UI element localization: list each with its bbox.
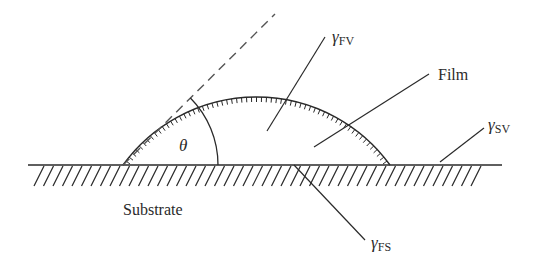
gamma-fv-subscript: FV [339,34,355,48]
film-hatch-tick [314,108,316,113]
film-hatch-tick [281,99,282,104]
substrate-hatch-stroke [386,166,396,186]
substrate-hatch-stroke [329,166,339,186]
substrate-hatch-stroke [376,166,386,186]
film-hatch-tick [222,101,223,106]
substrate-hatch-stroke [272,166,282,186]
substrate-hatch-stroke [424,166,434,186]
film-hatch-tick [175,119,177,123]
substrate-hatch-stroke [471,166,481,186]
substrate-hatch-stroke [82,166,92,186]
gamma-fs-subscript: FS [378,240,391,254]
film-hatch-tick [300,103,301,108]
substrate-hatch-stroke [224,166,234,186]
substrate-label: Substrate [123,201,183,218]
substrate-hatch-stroke [129,166,139,186]
substrate-hatch-stroke [120,166,130,186]
gamma-fv-label: γFV [332,27,354,48]
film-hatch-tick [212,103,213,108]
substrate-hatch-stroke [177,166,187,186]
film-hatch-tick [360,136,363,140]
contact-angle-arc [190,98,218,165]
film-hatch-tick [193,110,195,115]
substrate-hatch-stroke [253,166,263,186]
gamma-sv-subscript: SV [495,122,511,136]
film-hatch-tick [370,146,374,150]
substrate-hatch-stroke [433,166,443,186]
gamma-fv-leader [267,37,325,131]
film-hatch-tick [179,116,181,120]
film-hatch-tick [331,116,333,120]
film-hatch-tick [237,98,238,103]
substrate-hatch-stroke [63,166,73,186]
film-hatch-tick [309,106,311,111]
substrate-hatch-stroke [44,166,54,186]
substrate-hatch-stroke [158,166,168,186]
film-hatch-tick [295,102,296,107]
substrate-hatch-stroke [91,166,101,186]
film-hatch-tick [290,101,291,106]
substrate-hatch-stroke [319,166,329,186]
film-label: Film [438,66,469,83]
film-hatch-tick [207,105,209,110]
film-hatch-tick [336,119,338,123]
film-leader [314,74,429,147]
film-hatch-tick [327,114,329,119]
film-hatch-tick [363,139,366,143]
film-hatch-tick [232,99,233,104]
film-hatch-tick [202,106,204,111]
film-hatch-tick [184,114,186,119]
film-hatch-tick [304,105,306,110]
film-hatch-tick [227,100,228,105]
gamma-fs-label: γFS [371,233,391,254]
substrate-hatch-stroke [196,166,206,186]
substrate-hatch-stroke [186,166,196,186]
substrate-hatch-stroke [338,166,348,186]
film-hatch-tick [276,98,277,103]
substrate-hatch-stroke [139,166,149,186]
film-hatch-tick [356,133,359,137]
film-hatch-tick [171,121,174,125]
film-hatching [126,97,387,164]
substrate-hatch-stroke [110,166,120,186]
substrate-hatch-stroke [53,166,63,186]
substrate-hatching [34,166,481,186]
theta-label: θ [179,136,187,155]
film-hatch-tick [217,102,218,107]
tangent-dashed-line [123,14,275,165]
substrate-hatch-stroke [205,166,215,186]
film-hatch-tick [162,127,165,131]
substrate-hatch-stroke [167,166,177,186]
substrate-hatch-stroke [452,166,462,186]
film-hatch-tick [352,130,355,134]
substrate-hatch-stroke [462,166,472,186]
film-hatch-tick [374,150,378,153]
substrate-hatch-stroke [395,166,405,186]
film-hatch-tick [166,124,169,128]
substrate-hatch-stroke [281,166,291,186]
film-hatch-tick [129,157,133,160]
substrate-hatch-stroke [262,166,272,186]
gamma-sv-leader [440,128,484,162]
substrate-hatch-stroke [367,166,377,186]
film-hatch-tick [377,153,381,156]
film-hatch-tick [348,127,351,131]
film-hatch-tick [380,157,384,160]
substrate-hatch-stroke [34,166,44,186]
substrate-hatch-stroke [148,166,158,186]
substrate-hatch-stroke [443,166,453,186]
film-hatch-tick [318,110,320,115]
substrate-hatch-stroke [291,166,301,186]
film-hatch-tick [188,112,190,117]
substrate-hatch-stroke [357,166,367,186]
gamma-sv-label: γSV [488,115,510,136]
substrate-hatch-stroke [101,166,111,186]
wetting-diagram: θ γFV Film γSV γFS Substrate [0,0,544,270]
substrate-hatch-stroke [405,166,415,186]
substrate-hatch-stroke [414,166,424,186]
substrate-hatch-stroke [72,166,82,186]
gamma-fs-leader [294,165,365,240]
film-hatch-tick [367,142,371,146]
film-hatch-tick [150,136,153,140]
substrate-hatch-stroke [348,166,358,186]
